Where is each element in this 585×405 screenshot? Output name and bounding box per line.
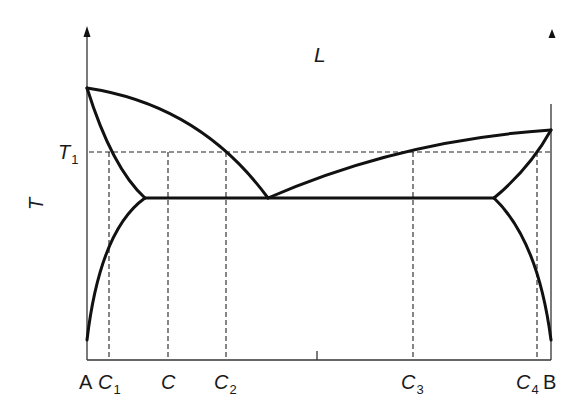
c4-main: C bbox=[516, 371, 530, 393]
c2-main: C bbox=[214, 371, 228, 393]
c3-main: C bbox=[401, 371, 415, 393]
left-solvus bbox=[87, 198, 145, 340]
c2-label: C2 bbox=[214, 372, 237, 392]
c3-subscript: 3 bbox=[416, 382, 423, 397]
component-b-label: B bbox=[543, 372, 556, 392]
c1-main: C bbox=[98, 371, 112, 393]
right-liquidus bbox=[268, 130, 551, 198]
c1-subscript: 1 bbox=[113, 382, 120, 397]
t1-label: T1 bbox=[58, 142, 78, 162]
c2-subscript: 2 bbox=[229, 382, 236, 397]
t1-main: T bbox=[58, 141, 70, 163]
c-label: C bbox=[161, 372, 175, 392]
axes bbox=[84, 26, 556, 360]
c4-label: C4 bbox=[516, 372, 539, 392]
liquid-region-label: L bbox=[314, 44, 326, 65]
right-solvus bbox=[494, 198, 551, 340]
guide-lines bbox=[89, 152, 551, 360]
t1-subscript: 1 bbox=[71, 152, 78, 167]
right-solidus bbox=[494, 130, 551, 198]
left-liquidus bbox=[87, 88, 268, 198]
c4-subscript: 4 bbox=[531, 382, 538, 397]
phase-diagram bbox=[0, 0, 585, 405]
right-axis-arrow-icon bbox=[549, 29, 556, 38]
c3-label: C3 bbox=[401, 372, 424, 392]
component-a-label: A bbox=[79, 372, 92, 392]
phase-boundaries bbox=[87, 88, 551, 340]
temperature-axis-label: T bbox=[26, 198, 46, 210]
c1-label: C1 bbox=[98, 372, 121, 392]
left-solidus bbox=[87, 88, 145, 198]
left-axis-arrow-icon bbox=[84, 26, 91, 37]
